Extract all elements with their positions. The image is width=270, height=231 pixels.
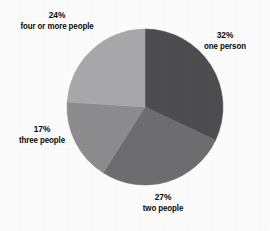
pie-slice-four-or-more-people <box>67 29 145 107</box>
slice-percent-one-person: 32% <box>191 29 260 40</box>
slice-label-three-people: 17% three people <box>4 123 80 146</box>
slice-name-three-people: three people <box>9 135 76 146</box>
pie-chart-figure: 32% one person 27% two people 17% three … <box>0 0 270 231</box>
slice-label-four-or-more-people: 24% four or more people <box>2 9 112 32</box>
slice-percent-three-people: 17% <box>9 123 76 134</box>
slice-name-two-people: two people <box>129 203 198 214</box>
pie-slice-group <box>67 29 223 185</box>
slice-name-four-or-more-people: four or more people <box>9 21 106 32</box>
slice-name-one-person: one person <box>191 41 260 52</box>
slice-percent-four-or-more-people: 24% <box>9 9 106 20</box>
slice-label-two-people: 27% two people <box>124 191 202 214</box>
slice-label-one-person: 32% one person <box>186 29 264 52</box>
slice-percent-two-people: 27% <box>129 191 198 202</box>
